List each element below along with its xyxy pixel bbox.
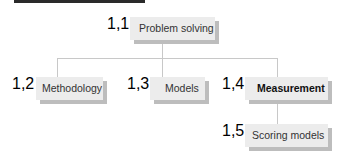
node-label: Scoring models: [252, 124, 324, 147]
connector-to-1-4: [277, 58, 278, 78]
header-bar: [14, 0, 145, 3]
node-label: Problem solving: [139, 17, 214, 40]
connector-to-1-2: [57, 58, 58, 78]
node-number: 1,4: [222, 75, 244, 93]
node-1-4: Measurement: [245, 77, 328, 100]
connector-to-1-3: [162, 58, 163, 78]
node-label: Models: [165, 77, 199, 100]
node-1-2: Methodology: [36, 77, 103, 100]
node-label: Measurement: [257, 77, 325, 100]
node-number: 1,2: [12, 75, 34, 93]
connector-horizontal: [57, 58, 278, 59]
node-number: 1,3: [127, 75, 149, 93]
node-label: Methodology: [42, 77, 102, 100]
node-number: 1,1: [107, 15, 129, 33]
node-1-5: Scoring models: [245, 124, 328, 147]
node-number: 1,5: [222, 122, 244, 140]
node-1-3: Models: [150, 77, 205, 100]
node-1-1: Problem solving: [130, 17, 215, 40]
